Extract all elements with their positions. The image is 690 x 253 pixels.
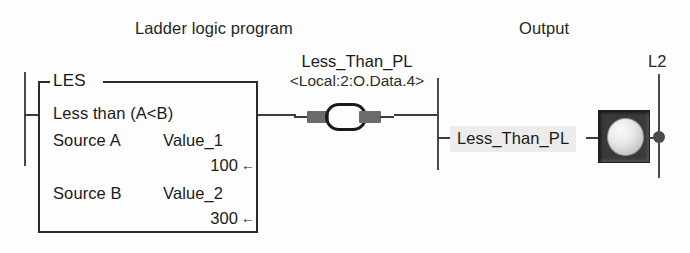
coil-right-wire <box>380 116 394 118</box>
coil-right-terminal <box>359 111 381 123</box>
coil-tag-label: Less_Than_PL <box>292 52 422 71</box>
les-to-coil-wire <box>258 114 296 116</box>
ladder-program-title: Ladder logic program <box>135 19 293 38</box>
source-b-label: Source B <box>53 184 122 203</box>
les-box-top-left-edge <box>38 81 50 83</box>
output-section-title: Output <box>519 19 569 38</box>
output-coil[interactable] <box>294 105 394 129</box>
source-a-label: Source A <box>53 131 121 150</box>
source-b-tag[interactable]: Value_2 <box>163 184 223 203</box>
source-b-value: 300 <box>150 209 238 228</box>
pilot-light-lamp[interactable] <box>598 110 650 163</box>
ladder-logic-diagram: Ladder logic program Output LES Less tha… <box>0 0 690 253</box>
output-left-rail <box>437 78 439 170</box>
les-box-top-right-edge <box>103 81 258 83</box>
source-a-arrow-icon: ← <box>240 157 255 173</box>
source-a-value: 100 <box>150 156 238 175</box>
source-b-arrow-icon: ← <box>240 210 255 226</box>
lamp-tag-label: Less_Than_PL <box>450 126 576 152</box>
coil-left-wire <box>294 116 308 118</box>
l2-rail-label: L2 <box>648 52 666 71</box>
les-mnemonic-label: LES <box>53 71 86 91</box>
source-a-tag[interactable]: Value_1 <box>163 131 223 150</box>
left-power-rail <box>24 72 26 166</box>
les-description: Less than (A<B) <box>53 104 173 123</box>
coil-to-output-wire <box>394 114 438 116</box>
lamp-bulb-icon <box>607 118 644 156</box>
l2-power-rail <box>658 74 660 178</box>
coil-address-label: <Local:2:O.Data.4> <box>272 72 442 90</box>
